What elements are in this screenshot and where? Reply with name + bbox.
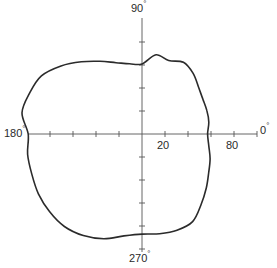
angle-label-90: 90°	[131, 2, 146, 14]
polar-chart	[0, 0, 277, 268]
angle-label-180: 180°	[4, 127, 26, 139]
chart-axes	[28, 18, 257, 252]
angle-label-0: 0°	[260, 124, 269, 136]
polar-curve	[22, 55, 210, 239]
radial-tick-label-20: 20	[157, 139, 169, 151]
angle-label-270: 270°	[129, 252, 151, 264]
radial-tick-label-80: 80	[226, 139, 238, 151]
